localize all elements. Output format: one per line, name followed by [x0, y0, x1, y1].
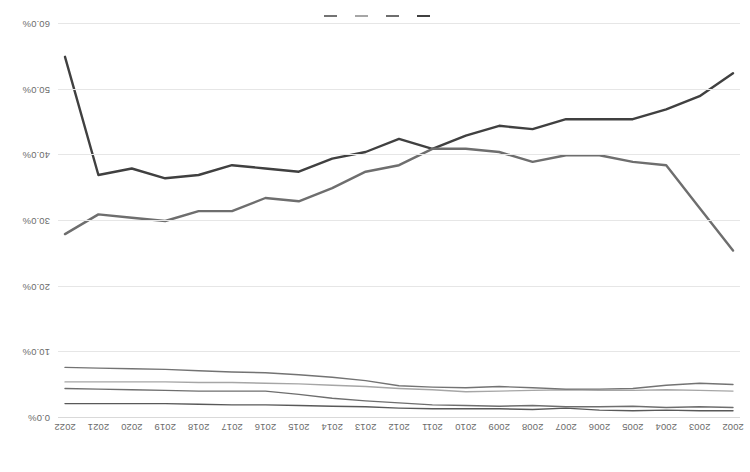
gridline-60 [58, 23, 740, 24]
y-axis-tick-label: 30.0% [2, 216, 50, 226]
x-axis: 2002200320042005200620072008200920102011… [58, 422, 740, 466]
y-axis-tick-label: 50.0% [2, 85, 50, 95]
chart-legend [0, 0, 750, 17]
legend-swatch [386, 15, 399, 17]
x-axis-tick-label: 2007 [549, 422, 583, 433]
x-axis-tick-label: 2005 [616, 422, 650, 433]
x-axis-tick-label: 2015 [282, 422, 316, 433]
x-axis-tick-label: 2022 [48, 422, 82, 433]
legend-item[interactable] [382, 15, 399, 17]
x-axis-tick-label: 2019 [148, 422, 182, 433]
series-lines [58, 24, 740, 418]
x-axis-tick-label: 2013 [349, 422, 383, 433]
chart-figure: 2002200320042005200620072008200920102011… [0, 0, 750, 472]
gridline-30 [58, 220, 740, 221]
plot-area [58, 24, 740, 418]
series-line [65, 389, 733, 408]
legend-swatch [324, 15, 337, 17]
series-line [65, 367, 733, 389]
x-axis-tick-label: 2004 [649, 422, 683, 433]
x-axis-tick-label: 2014 [315, 422, 349, 433]
gridline-50 [58, 89, 740, 90]
x-axis-tick-label: 2010 [449, 422, 483, 433]
y-axis-tick-label: 10.0% [2, 347, 50, 357]
x-axis-tick-label: 2006 [582, 422, 616, 433]
x-axis-tick-label: 2021 [81, 422, 115, 433]
legend-item[interactable] [351, 15, 368, 17]
gridline-40 [58, 154, 740, 155]
gridline-0 [58, 417, 740, 418]
series-line [65, 57, 733, 179]
x-axis-tick-label: 2017 [215, 422, 249, 433]
x-axis-tick-label: 2011 [415, 422, 449, 433]
series-line [65, 149, 733, 251]
x-axis-tick-label: 2018 [182, 422, 216, 433]
y-axis-tick-label: 60.0% [2, 19, 50, 29]
x-axis-tick-label: 2020 [115, 422, 149, 433]
rotated-chart-container: 2002200320042005200620072008200920102011… [0, 0, 750, 472]
x-axis-tick-label: 2012 [382, 422, 416, 433]
gridline-10 [58, 351, 740, 352]
y-axis-tick-label: 40.0% [2, 150, 50, 160]
y-axis-tick-label: 0.0% [2, 413, 50, 423]
legend-swatch [355, 15, 368, 17]
y-axis-tick-label: 20.0% [2, 282, 50, 292]
x-axis-tick-label: 2016 [248, 422, 282, 433]
x-axis-tick-label: 2003 [683, 422, 717, 433]
x-axis-tick-label: 2002 [716, 422, 750, 433]
x-axis-tick-label: 2008 [516, 422, 550, 433]
legend-item[interactable] [413, 15, 430, 17]
series-line [65, 404, 733, 411]
legend-swatch [417, 15, 430, 17]
gridline-20 [58, 286, 740, 287]
legend-item[interactable] [320, 15, 337, 17]
x-axis-tick-label: 2009 [482, 422, 516, 433]
